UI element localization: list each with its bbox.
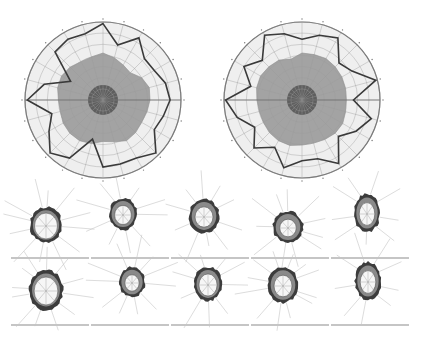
radial-ray (186, 190, 196, 202)
tick-mark (223, 78, 224, 79)
tick-mark (223, 120, 224, 121)
radial-ray (12, 294, 29, 297)
tick-mark (123, 178, 124, 179)
tick-mark (371, 140, 372, 141)
radial-ray (10, 229, 31, 234)
tick-mark (32, 59, 33, 60)
radial-ray (366, 232, 367, 245)
radial-ray (117, 244, 127, 268)
figure (0, 0, 422, 341)
tick-mark (231, 59, 232, 60)
radial-ray (63, 293, 94, 297)
radial-ray (12, 288, 29, 289)
tick-mark (62, 169, 63, 170)
radial-ray (47, 247, 48, 270)
radial-ray (292, 243, 299, 267)
tick-mark (62, 29, 63, 30)
tick-mark (231, 140, 232, 141)
radial-ray (377, 295, 391, 306)
radial-ray (59, 303, 75, 315)
radial-ray (379, 262, 401, 272)
cross-section-panel (12, 247, 94, 330)
radial-ray (252, 198, 276, 217)
radial-ray (22, 268, 33, 276)
cross-section-panel (166, 170, 242, 262)
cross-section-panel (235, 251, 319, 330)
radial-ray (51, 309, 58, 330)
tick-mark (102, 18, 103, 19)
tick-mark (45, 157, 46, 158)
tick-mark (102, 180, 103, 181)
tick-mark (32, 140, 33, 141)
radial-ray (86, 221, 110, 232)
tick-mark (380, 120, 381, 121)
radial-ray (56, 188, 75, 211)
radial-ray (132, 226, 150, 246)
polar-plot-left (21, 18, 184, 181)
tick-mark (359, 157, 360, 158)
radial-ray (173, 272, 195, 279)
tick-mark (160, 42, 161, 43)
tick-mark (143, 29, 144, 30)
tick-mark (380, 78, 381, 79)
radial-ray (166, 204, 190, 211)
radial-ray (286, 303, 290, 319)
radial-ray (301, 236, 322, 249)
cross-section-panel (252, 189, 325, 272)
cross-section-panel (335, 233, 402, 325)
tick-mark (322, 178, 323, 179)
cross-section-panel (173, 254, 249, 328)
radial-ray (126, 230, 131, 253)
tick-mark (24, 78, 25, 79)
tick-mark (45, 42, 46, 43)
radial-ray (47, 190, 48, 207)
radial-ray (337, 255, 358, 269)
radial-ray (273, 251, 279, 267)
radial-ray (288, 254, 294, 268)
radial-ray (216, 258, 226, 270)
radial-ray (335, 285, 356, 288)
radial-ray (209, 301, 210, 327)
tick-mark (172, 59, 173, 60)
tick-mark (322, 21, 323, 22)
radial-ray (211, 186, 220, 201)
tick-mark (81, 21, 82, 22)
radial-ray (184, 299, 201, 328)
radial-ray (302, 232, 323, 238)
radial-ray (303, 219, 326, 224)
radial-ray (248, 278, 268, 282)
radial-ray (216, 298, 228, 314)
radial-ray (218, 222, 242, 230)
radial-ray (130, 188, 139, 201)
tick-mark (261, 29, 262, 30)
radial-ray (62, 227, 95, 230)
radial-ray (296, 295, 313, 304)
tick-mark (261, 169, 262, 170)
radial-ray (140, 257, 153, 271)
radial-ray (137, 214, 168, 215)
radial-ray (61, 213, 90, 221)
tick-mark (280, 178, 281, 179)
radial-ray (253, 260, 271, 274)
cross-section-panel (76, 178, 167, 253)
radial-ray (200, 255, 204, 268)
radial-ray (53, 241, 67, 270)
radial-ray (35, 309, 41, 326)
radial-ray (100, 184, 114, 202)
tick-mark (342, 169, 343, 170)
radial-ray (299, 196, 319, 216)
radial-ray (378, 189, 401, 202)
tick-mark (301, 18, 302, 19)
radial-ray (297, 270, 319, 278)
radial-ray (116, 178, 120, 199)
tick-mark (181, 78, 182, 79)
radial-ray (144, 262, 178, 276)
tick-mark (382, 99, 383, 100)
radial-ray (109, 229, 117, 245)
tick-mark (143, 169, 144, 170)
radial-ray (145, 283, 176, 286)
tick-mark (244, 157, 245, 158)
radial-ray (86, 280, 119, 281)
radial-ray (88, 263, 120, 276)
radial-ray (175, 223, 191, 230)
